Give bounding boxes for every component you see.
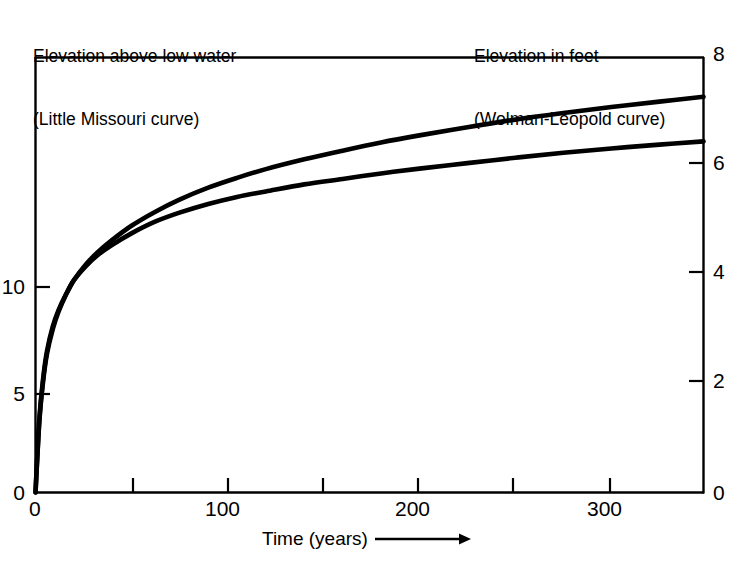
x-tick-label-300: 300: [587, 498, 622, 519]
x-axis-label: Time (years): [262, 528, 471, 549]
x-axis-ticks: [133, 478, 610, 492]
right-tick-label-8: 8: [713, 43, 725, 64]
right-tick-label-6: 6: [713, 152, 725, 173]
left-tick-label-5: 5: [0, 383, 25, 404]
right-tick-label-4: 4: [713, 261, 725, 282]
x-tick-label-0: 0: [29, 498, 41, 519]
left-tick-label-10: 10: [0, 276, 25, 297]
data-curves: [36, 97, 704, 493]
left-tick-label-0: 0: [0, 482, 25, 503]
right-arrow-icon: [375, 531, 471, 547]
right-axis-ticks: [689, 163, 703, 381]
x-axis-label-text: Time (years): [262, 528, 368, 549]
right-tick-label-0: 0: [713, 482, 725, 503]
x-tick-label-200: 200: [395, 498, 430, 519]
axis-frame: [35, 57, 704, 494]
chart-figure: Elevation above low water (Little Missou…: [0, 0, 731, 564]
right-tick-label-2: 2: [713, 370, 725, 391]
x-tick-label-100: 100: [205, 498, 240, 519]
curve-2: [36, 97, 704, 493]
plot-area: [0, 0, 731, 564]
curve-1: [36, 141, 704, 492]
